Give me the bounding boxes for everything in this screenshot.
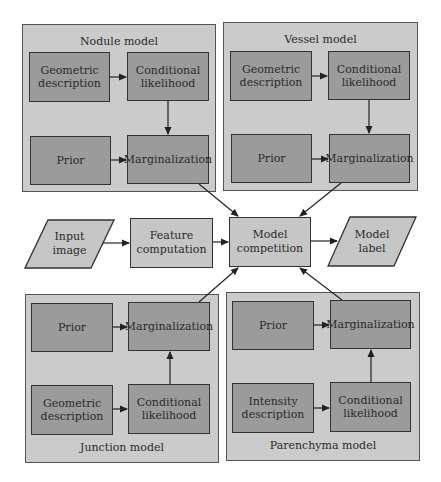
nodule-model-title: Nodule model: [23, 35, 215, 48]
parenchyma-marginalization-box: Marginalization: [330, 300, 411, 349]
vessel-conditional-likelihood-box: Conditional likelihood: [328, 51, 410, 100]
nodule-geometric-description-box: Geometric description: [29, 52, 110, 102]
vessel-model-title: Vessel model: [224, 33, 417, 46]
input-image-node: Input image: [24, 219, 115, 269]
parenchyma-conditional-likelihood-box: Conditional likelihood: [330, 382, 411, 432]
junction-geometric-description-box: Geometric description: [31, 385, 113, 435]
input-image-label: Input image: [52, 230, 88, 258]
nodule-conditional-likelihood-box: Conditional likelihood: [127, 52, 209, 101]
junction-model-title: Junction model: [26, 441, 218, 454]
parenchyma-intensity-description-box: Intensity description: [232, 383, 314, 433]
feature-computation-box: Feature computation: [130, 218, 213, 268]
junction-marginalization-box: Marginalization: [128, 302, 210, 351]
nodule-marginalization-box: Marginalization: [127, 135, 209, 184]
vessel-prior-box: Prior: [231, 134, 312, 183]
vessel-marginalization-box: Marginalization: [329, 134, 410, 183]
model-label-label: Model label: [354, 228, 390, 256]
nodule-prior-box: Prior: [30, 136, 111, 185]
parenchyma-model-title: Parenchyma model: [227, 439, 419, 452]
junction-conditional-likelihood-box: Conditional likelihood: [128, 384, 210, 434]
vessel-geometric-description-box: Geometric description: [230, 51, 312, 101]
parenchyma-prior-box: Prior: [232, 301, 314, 350]
model-label-node: Model label: [327, 216, 417, 267]
model-competition-box: Model competition: [229, 217, 311, 267]
junction-prior-box: Prior: [31, 303, 113, 352]
